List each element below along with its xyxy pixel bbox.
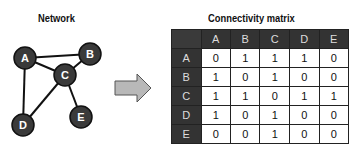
matrix-cell: 0 <box>319 68 349 87</box>
matrix-cell: 1 <box>289 87 319 106</box>
row-header: D <box>172 106 202 125</box>
matrix-cell: 1 <box>260 125 290 144</box>
arrow-icon <box>115 74 151 102</box>
node-e: E <box>70 106 92 128</box>
matrix-row: D 1 0 1 0 0 <box>172 106 349 125</box>
matrix-row: E 0 0 1 0 0 <box>172 125 349 144</box>
matrix-cell: 0 <box>230 68 259 87</box>
matrix-header-row: A B C D E <box>172 30 349 49</box>
matrix-cell: 1 <box>230 87 259 106</box>
matrix-row: A 0 1 1 1 0 <box>172 49 349 68</box>
connectivity-matrix: A B C D E A 0 1 1 1 0 B 1 0 1 0 0 C 1 1 … <box>171 29 349 144</box>
matrix-cell: 1 <box>260 106 290 125</box>
matrix-corner <box>172 30 202 49</box>
column-header: D <box>289 30 319 49</box>
node-a: A <box>14 47 36 69</box>
column-header: A <box>201 30 230 49</box>
matrix-row: B 1 0 1 0 0 <box>172 68 349 87</box>
matrix-cell: 1 <box>201 87 230 106</box>
matrix-cell: 0 <box>201 49 230 68</box>
column-header: B <box>230 30 259 49</box>
row-header: A <box>172 49 202 68</box>
matrix-cell: 1 <box>260 49 290 68</box>
node-c: C <box>54 64 76 86</box>
node-b: B <box>79 43 101 65</box>
matrix-cell: 1 <box>260 68 290 87</box>
column-header: E <box>319 30 349 49</box>
matrix-cell: 1 <box>289 49 319 68</box>
matrix-row: C 1 1 0 1 1 <box>172 87 349 106</box>
matrix-cell: 1 <box>230 49 259 68</box>
matrix-cell: 1 <box>201 106 230 125</box>
row-header: C <box>172 87 202 106</box>
svg-text:E: E <box>77 111 84 123</box>
matrix-cell: 0 <box>319 125 349 144</box>
matrix-cell: 0 <box>201 125 230 144</box>
svg-text:C: C <box>61 69 69 81</box>
matrix-cell: 0 <box>319 106 349 125</box>
matrix-cell: 0 <box>230 106 259 125</box>
row-header: B <box>172 68 202 87</box>
matrix-cell: 1 <box>201 68 230 87</box>
svg-text:D: D <box>19 119 27 131</box>
matrix-cell: 0 <box>260 87 290 106</box>
matrix-cell: 0 <box>319 49 349 68</box>
svg-text:A: A <box>21 52 29 64</box>
matrix-cell: 0 <box>289 68 319 87</box>
matrix-cell: 0 <box>289 125 319 144</box>
node-d: D <box>12 114 34 136</box>
row-header: E <box>172 125 202 144</box>
matrix-cell: 0 <box>230 125 259 144</box>
matrix-cell: 0 <box>289 106 319 125</box>
column-header: C <box>260 30 290 49</box>
svg-text:B: B <box>86 48 94 60</box>
matrix-cell: 1 <box>319 87 349 106</box>
